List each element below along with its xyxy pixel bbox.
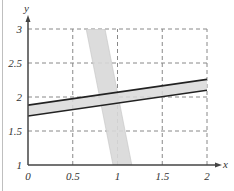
- x-tick-label: 2: [204, 170, 210, 182]
- y-tick-label: 1.5: [8, 125, 22, 137]
- x-tick-label: 1: [115, 170, 121, 182]
- y-tick-label: 2: [17, 91, 23, 103]
- y-axis-label: y: [23, 2, 29, 14]
- x-tick-label: 0: [25, 170, 31, 182]
- y-tick-label: 1: [17, 159, 23, 171]
- chart-frame: 00.511.5211.522.53 x y: [0, 0, 234, 191]
- x-tick-label: 0.5: [66, 170, 80, 182]
- x-axis-arrow-icon: [215, 163, 222, 168]
- y-tick-label: 3: [16, 23, 23, 35]
- y-tick-label: 2.5: [8, 57, 22, 69]
- x-axis-label: x: [222, 158, 228, 170]
- y-axis-arrow-icon: [26, 15, 31, 22]
- x-tick-label: 1.5: [155, 170, 169, 182]
- chart-plot: 00.511.5211.522.53 x y: [0, 0, 234, 191]
